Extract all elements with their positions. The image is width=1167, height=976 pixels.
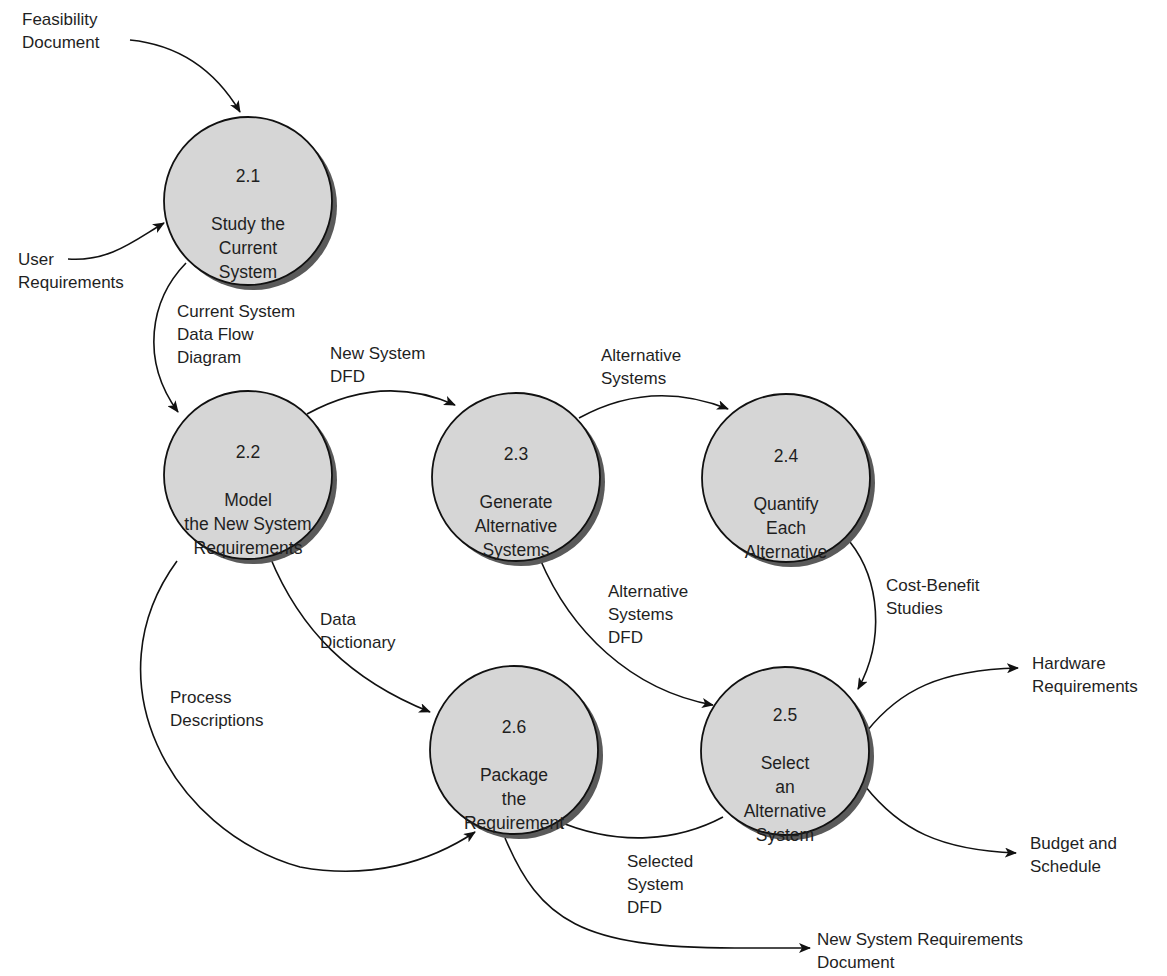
process-2-3: 2.3 Generate Alternative Systems (436, 418, 596, 586)
process-2-1: 2.1 Study the Current System (168, 140, 328, 308)
process-2-4: 2.4 Quantify Each Alternative (706, 420, 866, 588)
process-number: 2.2 (163, 440, 333, 464)
flow-budget-and-schedule (865, 786, 1016, 853)
label-alternative-systems: Alternative Systems (601, 344, 681, 390)
label-cost-benefit-studies: Cost-Benefit Studies (886, 574, 980, 620)
flow-hardware-requirements (867, 668, 1018, 731)
process-name: Package the Requirement (434, 763, 594, 835)
process-name: Study the Current System (168, 212, 328, 284)
label-feasibility-document: Feasibility Document (22, 8, 99, 54)
process-number: 2.5 (705, 703, 865, 727)
flow-alternative-systems (579, 396, 728, 418)
label-data-dictionary: Data Dictionary (320, 608, 396, 654)
label-hardware-requirements: Hardware Requirements (1032, 652, 1138, 698)
process-name: Select an Alternative System (705, 751, 865, 847)
flow-feasibility-document (130, 40, 240, 112)
process-number: 2.6 (434, 715, 594, 739)
process-2-5: 2.5 Select an Alternative System (705, 679, 865, 871)
process-2-6: 2.6 Package the Requirement (434, 691, 594, 859)
label-current-system-dfd: Current System Data Flow Diagram (177, 300, 295, 369)
label-new-system-dfd: New System DFD (330, 342, 425, 388)
label-alternative-systems-dfd: Alternative Systems DFD (608, 580, 688, 649)
process-number: 2.1 (168, 164, 328, 188)
process-name: Generate Alternative Systems (436, 490, 596, 562)
label-selected-system-dfd: Selected System DFD (627, 850, 693, 919)
label-user-requirements: User Requirements (18, 248, 124, 294)
label-new-system-requirements-document: New System Requirements Document (817, 928, 1023, 974)
label-budget-and-schedule: Budget and Schedule (1030, 832, 1117, 878)
process-number: 2.4 (706, 444, 866, 468)
process-name: Model the New System Requirements (163, 488, 333, 560)
process-name: Quantify Each Alternative (706, 492, 866, 564)
flow-new-system-dfd (307, 391, 455, 414)
process-number: 2.3 (436, 442, 596, 466)
label-process-descriptions: Process Descriptions (170, 686, 264, 732)
process-2-2: 2.2 Model the New System Requirements (163, 416, 333, 584)
